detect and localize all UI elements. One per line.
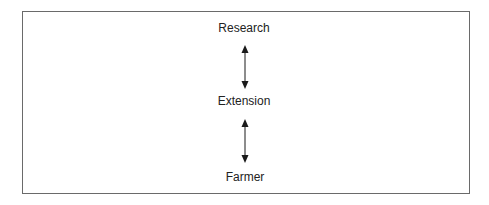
node-extension: Extension — [218, 94, 271, 108]
node-farmer: Farmer — [226, 170, 265, 184]
bidirectional-arrow-icon — [239, 119, 251, 163]
bidirectional-arrow-icon — [239, 45, 251, 89]
node-research: Research — [218, 21, 269, 35]
